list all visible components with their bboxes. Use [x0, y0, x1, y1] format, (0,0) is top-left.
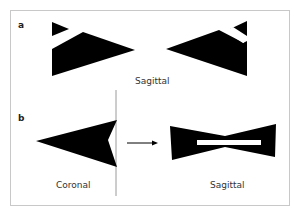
caption-b-coronal: Coronal [56, 180, 91, 190]
sagittal-bowtie-shape [170, 124, 276, 160]
panel-a-right-shape [166, 21, 247, 76]
diagram-canvas [0, 0, 299, 215]
arrow-icon [127, 141, 158, 146]
caption-a-sagittal: Sagittal [135, 76, 170, 86]
panel-label-a: a [18, 20, 24, 30]
coronal-shape [36, 120, 117, 167]
caption-b-sagittal: Sagittal [210, 180, 245, 190]
panel-label-b: b [18, 113, 24, 123]
panel-a-left-shape [52, 22, 135, 76]
sagittal-bar [197, 140, 261, 145]
